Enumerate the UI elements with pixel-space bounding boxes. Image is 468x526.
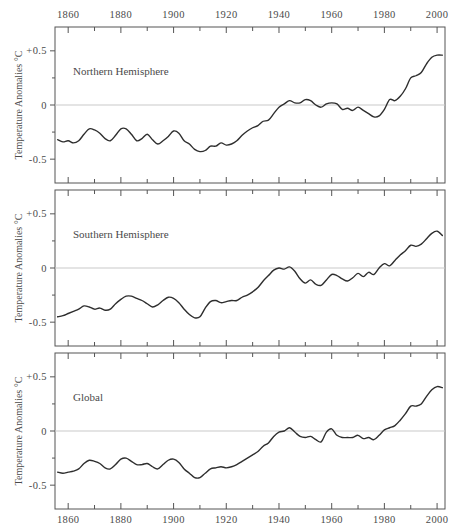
x-tick-label-bottom-1940: 1940 [268, 514, 291, 525]
y-tick-label--0.5-p3: -0.5 [29, 480, 47, 491]
x-tick-label-top-1900: 1900 [162, 9, 185, 20]
x-tick-label-top-1940: 1940 [268, 9, 291, 20]
x-tick-label-bottom-2000: 2000 [426, 514, 449, 525]
x-tick-label-top-1980: 1980 [373, 9, 396, 20]
x-tick-label-bottom-1880: 1880 [110, 514, 133, 525]
climate-anomaly-figure: +0.50-0.5Temperature Anomalies °CNorther… [0, 0, 468, 526]
x-tick-label-bottom-1980: 1980 [373, 514, 396, 525]
panel-label-3: Global [73, 391, 103, 403]
y-tick-label-0-p3: 0 [41, 426, 47, 437]
y-tick-label--0.5-p1: -0.5 [29, 154, 47, 165]
x-tick-label-bottom-1860: 1860 [57, 514, 80, 525]
y-tick-label-0-p1: 0 [41, 100, 47, 111]
y-tick-label-0-p2: 0 [41, 263, 47, 274]
x-tick-label-top-1920: 1920 [215, 9, 238, 20]
y-tick-label-+0.5-p3: +0.5 [26, 371, 47, 382]
y-tick-label-+0.5-p2: +0.5 [26, 208, 47, 219]
x-tick-label-top-1860: 1860 [57, 9, 80, 20]
series-line-global [58, 387, 443, 479]
x-tick-label-bottom-1960: 1960 [320, 514, 343, 525]
x-tick-label-top-2000: 2000 [426, 9, 449, 20]
y-axis-title-3: Temperature Anomalies °C [13, 376, 24, 485]
chart-canvas: +0.50-0.5Temperature Anomalies °CNorther… [0, 0, 468, 526]
x-tick-label-bottom-1900: 1900 [162, 514, 185, 525]
y-axis-title-1: Temperature Anomalies °C [13, 50, 24, 159]
x-tick-label-top-1960: 1960 [320, 9, 343, 20]
y-axis-title-2: Temperature Anomalies °C [13, 213, 24, 322]
panel-label-2: Southern Hemisphere [73, 228, 169, 240]
panel-label-1: Northern Hemisphere [73, 65, 169, 77]
y-tick-label--0.5-p2: -0.5 [29, 317, 47, 328]
y-tick-label-+0.5-p1: +0.5 [26, 45, 47, 56]
series-line-southern-hemisphere [58, 231, 443, 318]
x-tick-label-bottom-1920: 1920 [215, 514, 238, 525]
x-tick-label-top-1880: 1880 [110, 9, 133, 20]
